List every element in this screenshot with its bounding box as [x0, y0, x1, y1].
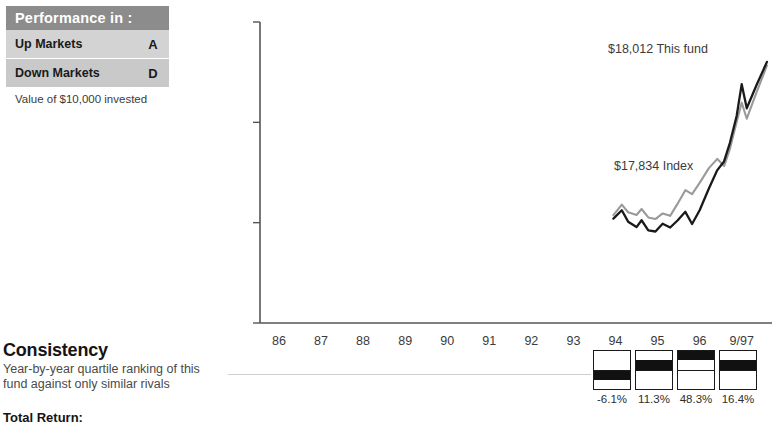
performance-panel-title: Performance in :	[15, 11, 133, 26]
x-axis-tick-label: 9/97	[730, 335, 754, 348]
median-divider-line	[228, 374, 591, 375]
quartile-cell-2	[720, 360, 756, 370]
quartile-cell-4	[594, 380, 630, 389]
quartile-cell-3	[720, 371, 756, 380]
consistency-description-line2: fund against only similar rivals	[3, 377, 170, 391]
quartile-cell-3	[678, 371, 714, 380]
chart-line-index	[613, 65, 767, 219]
chart-line-this-fund	[613, 62, 767, 232]
quartile-box	[677, 350, 715, 390]
x-axis-tick-label: 93	[566, 335, 580, 348]
quartile-cell-4	[636, 380, 672, 389]
consistency-description: Year-by-year quartile ranking of this fu…	[3, 362, 293, 393]
chart-series	[613, 62, 767, 232]
performance-panel-header: Performance in :	[6, 6, 169, 30]
performance-row-label: Down Markets	[15, 66, 146, 80]
quartile-cell-4	[720, 380, 756, 389]
quartile-cell-4	[678, 380, 714, 389]
quartile-box	[719, 350, 757, 390]
x-axis-tick-label: 88	[356, 335, 370, 348]
annotation-this-fund: $18,012 This fund	[608, 43, 708, 56]
x-axis-tick-label: 95	[651, 335, 665, 348]
performance-row-grade: D	[146, 66, 160, 81]
performance-row-down-markets: Down Markets D	[6, 59, 169, 88]
performance-panel: Performance in : Up Markets A Down Marke…	[6, 6, 169, 106]
consistency-title: Consistency	[3, 341, 293, 360]
quartile-cell-2	[594, 360, 630, 370]
consistency-section: Consistency Year-by-year quartile rankin…	[3, 341, 293, 392]
quartile-annual-return: -6.1%	[591, 394, 633, 406]
quartile-cell-2	[678, 360, 714, 370]
quartile-cell-1	[720, 351, 756, 360]
quartile-annual-return: 11.3%	[633, 394, 675, 406]
x-axis-tick-label: 87	[314, 335, 328, 348]
performance-row-label: Up Markets	[15, 37, 146, 51]
x-axis-tick-label: 96	[693, 335, 707, 348]
quartile-cell-1	[678, 351, 714, 360]
performance-panel-note: Value of $10,000 invested	[6, 93, 169, 106]
quartile-cell-3	[594, 371, 630, 380]
total-return-label: Total Return:	[3, 411, 83, 424]
quartile-annual-return: 48.3%	[675, 394, 717, 406]
consistency-description-line1: Year-by-year quartile ranking of this	[3, 362, 200, 376]
x-axis-tick-label: 94	[609, 335, 623, 348]
quartile-cell-3	[636, 371, 672, 380]
x-axis-tick-label: 91	[482, 335, 496, 348]
quartile-cell-1	[636, 351, 672, 360]
performance-row-up-markets: Up Markets A	[6, 30, 169, 59]
quartile-column: 11.3%	[635, 350, 673, 406]
quartile-column: 48.3%	[677, 350, 715, 406]
quartile-annual-return: 16.4%	[717, 394, 759, 406]
quartile-column: -6.1%	[593, 350, 631, 406]
quartile-column: 16.4%	[719, 350, 757, 406]
annotation-index: $17,834 Index	[614, 160, 693, 173]
quartile-box	[635, 350, 673, 390]
x-axis-tick-label: 89	[398, 335, 412, 348]
chart-axes	[253, 22, 772, 323]
performance-row-grade: A	[146, 37, 160, 52]
x-axis-tick-label: 90	[440, 335, 454, 348]
quartile-ranking-strip: -6.1%11.3%48.3%16.4%	[590, 350, 772, 426]
x-axis-tick-label: 92	[524, 335, 538, 348]
quartile-box	[593, 350, 631, 390]
growth-chart: $20,000$15,000$10,000$5,000 868788899091…	[178, 0, 772, 355]
quartile-cell-2	[636, 360, 672, 370]
quartile-cell-1	[594, 351, 630, 360]
